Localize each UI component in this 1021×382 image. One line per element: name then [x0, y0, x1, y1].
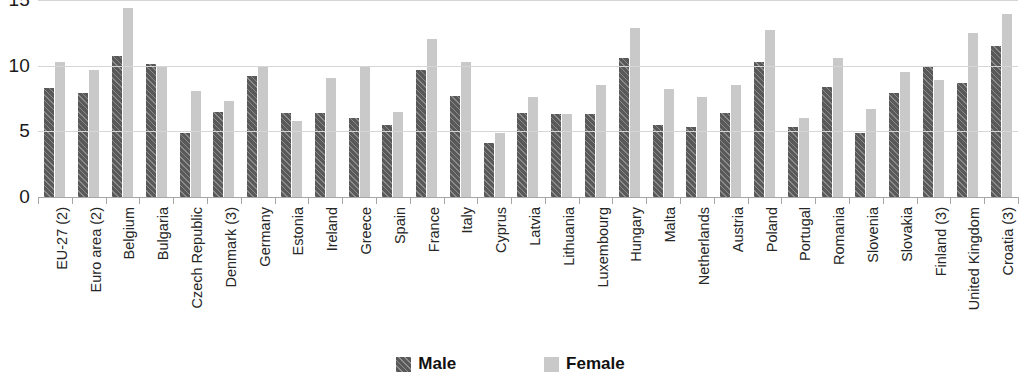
bar-male[interactable] [822, 87, 832, 197]
bar-male[interactable] [112, 56, 122, 197]
bar-female[interactable] [461, 62, 471, 197]
bar-female[interactable] [89, 70, 99, 197]
x-tick [342, 197, 343, 204]
legend-entry-female[interactable]: Female [544, 354, 625, 374]
bar-female[interactable] [191, 91, 201, 197]
bar-male[interactable] [213, 112, 223, 197]
x-tick [139, 197, 140, 204]
bar-male[interactable] [484, 143, 494, 197]
bar-male[interactable] [991, 46, 1001, 197]
x-tick [72, 197, 73, 204]
x-tick [410, 197, 411, 204]
bar-male[interactable] [551, 114, 561, 197]
bar-female[interactable] [765, 30, 775, 197]
legend-swatch-male-icon [396, 357, 411, 372]
x-axis-label: Finland (3) [934, 207, 949, 276]
bar-female[interactable] [630, 28, 640, 197]
bar-female[interactable] [123, 8, 133, 197]
bar-group [714, 0, 748, 197]
bar-female[interactable] [900, 72, 910, 197]
bar-male[interactable] [619, 58, 629, 197]
x-tick [612, 197, 613, 204]
bar-male[interactable] [180, 133, 190, 197]
bar-group [511, 0, 545, 197]
bar-male[interactable] [349, 118, 359, 197]
x-axis-label: Romania [832, 207, 847, 265]
bar-group [139, 0, 173, 197]
bar-male[interactable] [247, 76, 257, 197]
bar-male[interactable] [855, 133, 865, 197]
bar-group [680, 0, 714, 197]
bar-group [579, 0, 613, 197]
bar-group [815, 0, 849, 197]
x-axis-label: France [427, 207, 442, 252]
x-tick [207, 197, 208, 204]
bar-male[interactable] [957, 83, 967, 197]
x-axis-label: Croatia (3) [1001, 207, 1016, 276]
bar-male[interactable] [416, 70, 426, 197]
bar-male[interactable] [653, 125, 663, 197]
x-tick [646, 197, 647, 204]
bar-female[interactable] [55, 62, 65, 197]
bar-group [781, 0, 815, 197]
x-tick [781, 197, 782, 204]
bar-female[interactable] [596, 85, 606, 197]
bar-female[interactable] [799, 118, 809, 197]
bar-male[interactable] [585, 114, 595, 197]
plot-area [38, 0, 1018, 197]
bar-group [545, 0, 579, 197]
bar-male[interactable] [788, 127, 798, 197]
bar-female[interactable] [326, 78, 336, 198]
bar-group [241, 0, 275, 197]
bar-female[interactable] [697, 97, 707, 197]
chart-legend: Male Female [0, 352, 1021, 376]
bar-male[interactable] [315, 113, 325, 197]
x-axis-label: Slovakia [900, 207, 915, 262]
x-axis-label: Luxembourg [596, 207, 611, 288]
bar-group [477, 0, 511, 197]
x-tick [714, 197, 715, 204]
bar-male[interactable] [450, 96, 460, 197]
bar-male[interactable] [78, 93, 88, 197]
bar-female[interactable] [833, 58, 843, 197]
x-axis-label: Bulgaria [156, 207, 171, 260]
x-axis-label: United Kingdom [967, 207, 982, 310]
bar-male[interactable] [517, 113, 527, 197]
bar-group [308, 0, 342, 197]
y-tick-label-5: 5 [19, 120, 30, 142]
bar-male[interactable] [382, 125, 392, 197]
bar-male[interactable] [889, 93, 899, 197]
bar-female[interactable] [224, 101, 234, 197]
x-axis-label: Greece [359, 207, 374, 255]
bar-female[interactable] [664, 89, 674, 197]
bar-male[interactable] [720, 113, 730, 197]
bar-female[interactable] [934, 80, 944, 197]
bar-female[interactable] [968, 33, 978, 197]
bar-female[interactable] [866, 109, 876, 197]
bar-female[interactable] [1002, 14, 1012, 197]
bar-female[interactable] [562, 114, 572, 197]
x-tick [815, 197, 816, 204]
bar-male[interactable] [686, 127, 696, 197]
bar-male[interactable] [44, 88, 54, 197]
x-tick [38, 197, 39, 204]
x-axis-label: Austria [731, 207, 746, 252]
bar-female[interactable] [393, 112, 403, 197]
bar-female[interactable] [731, 85, 741, 197]
gridline-15 [38, 0, 1018, 1]
bar-group [917, 0, 951, 197]
x-tick [917, 197, 918, 204]
bar-female[interactable] [528, 97, 538, 197]
x-axis-label: Belgium [122, 207, 137, 259]
legend-swatch-female-icon [544, 357, 559, 372]
x-tick [849, 197, 850, 204]
x-axis-label: Germany [258, 207, 273, 267]
legend-entry-male[interactable]: Male [396, 354, 456, 374]
bar-female[interactable] [427, 39, 437, 197]
bar-male[interactable] [754, 62, 764, 197]
x-axis-line [38, 197, 1018, 198]
x-tick [477, 197, 478, 204]
x-tick [376, 197, 377, 204]
bar-female[interactable] [495, 133, 505, 197]
bar-male[interactable] [281, 113, 291, 197]
